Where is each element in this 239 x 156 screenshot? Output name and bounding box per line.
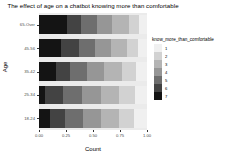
bar-segment xyxy=(50,109,65,128)
bar-segment xyxy=(134,109,147,128)
bar-segment xyxy=(136,62,147,81)
legend-entry: 7 xyxy=(154,92,214,100)
bar-segment xyxy=(87,62,104,81)
bar-segment xyxy=(39,62,56,81)
bar-row xyxy=(39,15,147,34)
legend-keys: 1234567 xyxy=(154,44,214,100)
x-tick-mark xyxy=(147,130,148,132)
bar-segment xyxy=(111,39,127,58)
chart-legend: know_more_than_comfortable 1234567 xyxy=(152,37,214,100)
x-tick-mark xyxy=(39,130,40,132)
bar-segment xyxy=(135,86,147,105)
y-tick-label: 65-Over xyxy=(1,22,35,27)
legend-label: 3 xyxy=(165,62,167,67)
x-tick-label: 0.25 xyxy=(54,133,78,138)
bar-segment xyxy=(129,15,139,34)
bar-segment xyxy=(101,86,119,105)
legend-swatch xyxy=(154,44,162,52)
y-tick-mark xyxy=(37,95,39,96)
bar-row xyxy=(39,62,147,81)
bar-segment xyxy=(97,15,113,34)
legend-label: 4 xyxy=(165,70,167,75)
legend-entry: 2 xyxy=(154,52,214,60)
bar-segment xyxy=(104,62,122,81)
legend-label: 7 xyxy=(165,94,167,99)
y-tick-mark xyxy=(37,72,39,73)
chart-figure: The effect of age on a chatbot knowing m… xyxy=(0,0,239,156)
bar-segment xyxy=(119,86,135,105)
y-axis-title: Age xyxy=(2,55,8,79)
bar-segment xyxy=(119,109,134,128)
bar-segment xyxy=(122,62,137,81)
legend-swatch xyxy=(154,76,162,84)
bar-segment xyxy=(79,39,95,58)
y-tick-label: 18-24 xyxy=(1,116,35,121)
plot-panel xyxy=(39,13,147,130)
legend-entry: 6 xyxy=(154,84,214,92)
bar-segment xyxy=(45,86,63,105)
bar-row xyxy=(39,109,147,128)
y-tick-label: 45-56 xyxy=(1,46,35,51)
bar-row xyxy=(39,39,147,58)
legend-label: 6 xyxy=(165,86,167,91)
y-tick-label: 35-42 xyxy=(1,69,35,74)
bar-segment xyxy=(61,39,79,58)
legend-label: 5 xyxy=(165,78,167,83)
legend-swatch xyxy=(154,52,162,60)
legend-swatch xyxy=(154,60,162,68)
bar-segment xyxy=(39,15,67,34)
bar-segment xyxy=(39,39,61,58)
bar-segment xyxy=(39,109,50,128)
x-tick-label: 1.00 xyxy=(135,133,159,138)
legend-entry: 5 xyxy=(154,76,214,84)
chart-title: The effect of age on a chatbot knowing m… xyxy=(0,2,186,10)
x-tick-label: 0.50 xyxy=(81,133,105,138)
bar-segment xyxy=(127,39,138,58)
legend-label: 2 xyxy=(165,54,167,59)
y-tick-label: 25-34 xyxy=(1,92,35,97)
legend-swatch xyxy=(154,92,162,100)
legend-label: 1 xyxy=(165,46,167,51)
bar-segment xyxy=(83,109,101,128)
bar-segment xyxy=(112,15,129,34)
legend-entry: 1 xyxy=(154,44,214,52)
x-tick-mark xyxy=(120,130,121,132)
legend-title: know_more_than_comfortable xyxy=(152,37,214,43)
bar-row xyxy=(39,86,147,105)
legend-entry: 3 xyxy=(154,60,214,68)
bar-segment xyxy=(70,62,86,81)
y-tick-mark xyxy=(37,118,39,119)
bar-segment xyxy=(63,86,82,105)
legend-swatch xyxy=(154,68,162,76)
bar-segment xyxy=(67,15,81,34)
x-tick-label: 0.75 xyxy=(108,133,132,138)
bar-segment xyxy=(65,109,83,128)
bar-segment xyxy=(82,86,100,105)
bar-segment xyxy=(56,62,71,81)
legend-entry: 4 xyxy=(154,68,214,76)
bar-segment xyxy=(81,15,97,34)
bar-segment xyxy=(101,109,119,128)
x-axis-title: Count xyxy=(39,146,147,152)
y-tick-mark xyxy=(37,25,39,26)
y-tick-mark xyxy=(37,48,39,49)
x-tick-label: 0.00 xyxy=(27,133,51,138)
x-tick-mark xyxy=(66,130,67,132)
bar-segment xyxy=(138,39,147,58)
bar-segment xyxy=(139,15,147,34)
bar-segment xyxy=(95,39,111,58)
legend-swatch xyxy=(154,84,162,92)
x-tick-mark xyxy=(93,130,94,132)
